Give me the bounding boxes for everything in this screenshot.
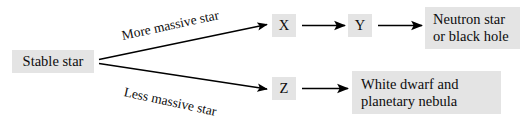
node-neutron-line-1: Neutron star: [433, 11, 505, 28]
node-neutron-line-2: or black hole: [433, 28, 509, 45]
node-neutron-star-or-black-hole: Neutron star or black hole: [425, 7, 520, 49]
node-z-label: Z: [280, 80, 289, 97]
edge-label-less-massive-star: Less massive star: [122, 84, 218, 118]
node-white-dwarf-and-planetary-nebula: White dwarf and planetary nebula: [352, 71, 501, 114]
node-z: Z: [272, 77, 296, 100]
node-stable-star: Stable star: [12, 50, 94, 73]
node-white-dwarf-line-1: White dwarf and: [361, 76, 458, 93]
edge-less-massive-arrow: [99, 64, 267, 90]
stellar-evolution-diagram: Stable star More massive star Less massi…: [0, 0, 527, 118]
node-stable-star-label: Stable star: [23, 53, 84, 70]
node-x: X: [272, 14, 296, 37]
node-y: Y: [348, 14, 372, 37]
node-white-dwarf-line-2: planetary nebula: [361, 93, 457, 110]
edge-label-more-massive-star: More massive star: [120, 7, 220, 44]
node-y-label: Y: [355, 17, 365, 34]
node-x-label: X: [279, 17, 289, 34]
